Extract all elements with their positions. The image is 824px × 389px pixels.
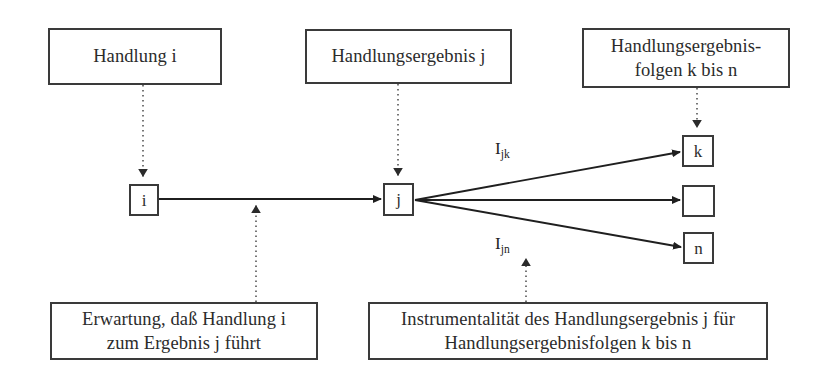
node-box-i: i	[129, 184, 159, 216]
node-box-j: j	[383, 183, 414, 216]
connector-j-to-k	[415, 152, 680, 200]
caption-box-handlungsergebnisfolgen-line2: folgen k bis n	[635, 60, 738, 80]
node-box-n: n	[683, 232, 714, 264]
caption-box-instrumentalitaet: Instrumentalität des Handlungsergebnis j…	[368, 302, 768, 360]
caption-box-erwartung: Erwartung, daß Handlung i zum Ergebnis j…	[50, 302, 318, 360]
edge-label-i-jn: Ijn	[495, 234, 510, 254]
node-box-blank	[682, 185, 715, 217]
node-box-i-label: i	[142, 192, 147, 209]
caption-box-erwartung-line1: Erwartung, daß Handlung i	[82, 309, 286, 329]
edge-label-i-jk-base: I	[495, 139, 501, 158]
edge-label-i-jn-base: I	[495, 234, 501, 253]
caption-box-instrumentalitaet-text: Instrumentalität des Handlungsergebnis j…	[401, 307, 735, 355]
caption-box-handlungsergebnisfolgen: Handlungsergebnis- folgen k bis n	[582, 28, 790, 88]
edge-label-i-jk-subscript: jk	[501, 148, 510, 161]
caption-box-instrumentalitaet-line2: Handlungsergebnisfolgen k bis n	[445, 333, 692, 353]
diagram-canvas: Handlung i Handlungsergebnis j Handlungs…	[0, 0, 824, 389]
node-box-n-label: n	[694, 240, 703, 257]
caption-box-erwartung-line2: zum Ergebnis j führt	[107, 333, 261, 353]
connector-j-to-n	[415, 200, 681, 247]
caption-box-handlung-i: Handlung i	[48, 28, 222, 85]
caption-box-instrumentalitaet-line1: Instrumentalität des Handlungsergebnis j…	[401, 309, 735, 329]
caption-box-handlungsergebnis-j-label: Handlungsergebnis j	[331, 44, 485, 68]
caption-box-handlungsergebnis-j: Handlungsergebnis j	[305, 29, 512, 84]
edge-label-i-jn-subscript: jn	[501, 243, 510, 256]
edge-label-i-jk: Ijk	[495, 139, 510, 159]
caption-box-erwartung-text: Erwartung, daß Handlung i zum Ergebnis j…	[82, 307, 286, 355]
node-box-k: k	[682, 135, 714, 167]
caption-box-handlungsergebnisfolgen-line1: Handlungsergebnis-	[611, 36, 761, 56]
node-box-k-label: k	[694, 143, 703, 160]
node-box-j-label: j	[396, 191, 401, 208]
caption-box-handlungsergebnisfolgen-text: Handlungsergebnis- folgen k bis n	[611, 34, 761, 82]
caption-box-handlung-i-label: Handlung i	[93, 44, 177, 68]
